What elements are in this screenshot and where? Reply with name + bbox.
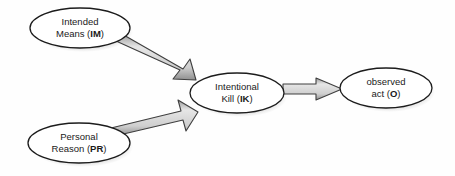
intended-means-node[interactable] — [30, 8, 130, 48]
diagram-canvas: Intended Means (IM) Personal Reason (PR)… — [0, 0, 455, 176]
intentional-kill-node[interactable] — [190, 73, 284, 113]
personal-reason-node[interactable] — [28, 123, 130, 163]
arrow-personal-reason-to-intentional-kill — [111, 100, 198, 136]
diagram-graphics — [0, 0, 455, 176]
arrow-intentional-kill-to-observed-act — [283, 78, 342, 100]
observed-act-node[interactable] — [340, 68, 432, 108]
arrow-intended-means-to-intentional-kill — [116, 34, 196, 80]
